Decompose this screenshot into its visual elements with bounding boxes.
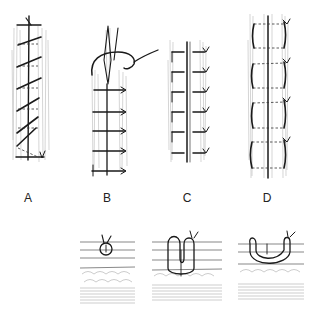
- cross-section-simple: [80, 235, 135, 303]
- panel-c-interrupted-sutures: [168, 40, 209, 162]
- panel-b-locked-suture: [92, 26, 158, 176]
- panel-label-a: A: [18, 191, 38, 205]
- suture-illustration: [0, 0, 312, 311]
- panel-label-d: D: [257, 191, 277, 205]
- cross-section-half-buried-mattress: [238, 231, 304, 299]
- panel-a-continuous-suture: [12, 16, 49, 162]
- panel-label-c: C: [177, 191, 197, 205]
- panel-d-mattress-sutures: [248, 14, 290, 178]
- cross-section-vertical-mattress: [152, 231, 222, 300]
- panel-label-b: B: [97, 191, 117, 205]
